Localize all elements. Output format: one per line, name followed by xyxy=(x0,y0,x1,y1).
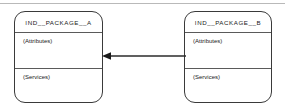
package-b-title: IND__PACKAGE__B xyxy=(185,12,271,33)
diagram-canvas: IND__PACKAGE__A (Attributes) (Services) … xyxy=(0,0,285,108)
dependency-arrow-b-to-a[interactable] xyxy=(100,50,186,62)
package-a-title: IND__PACKAGE__A xyxy=(15,12,102,33)
package-b-attributes-compartment: (Attributes) xyxy=(185,33,271,69)
package-a-services-compartment: (Services) xyxy=(15,69,102,102)
package-node-b[interactable]: IND__PACKAGE__B (Attributes) (Services) xyxy=(184,11,272,103)
package-node-a[interactable]: IND__PACKAGE__A (Attributes) (Services) xyxy=(14,11,103,103)
package-a-attributes-compartment: (Attributes) xyxy=(15,33,102,69)
page-top-rule xyxy=(0,3,285,4)
arrowhead-icon xyxy=(102,52,111,60)
package-b-services-compartment: (Services) xyxy=(185,69,271,102)
